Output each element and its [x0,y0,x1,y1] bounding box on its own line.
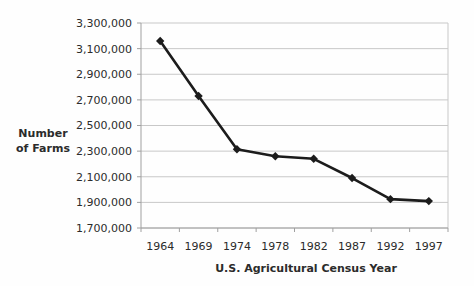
y-tick-label: 2,100,000 [76,171,132,184]
x-axis-title: U.S. Agricultural Census Year [150,262,462,275]
y-tick-label: 2,700,000 [76,94,132,107]
x-tick-label: 1992 [376,240,404,253]
y-tick-label: 3,100,000 [76,43,132,56]
x-tick-label: 1987 [338,240,366,253]
y-tick-label: 2,900,000 [76,68,132,81]
data-point-marker [309,155,317,163]
x-tick-label: 1964 [146,240,174,253]
data-point-marker [425,197,433,205]
y-tick-label: 2,300,000 [76,145,132,158]
y-tick-label: 2,500,000 [76,119,132,132]
farms-line-chart-figure: Number of Farms 3,300,0003,100,0002,900,… [0,0,474,286]
data-point-marker [271,152,279,160]
x-tick-label: 1969 [185,240,213,253]
y-tick-label: 1,700,000 [76,222,132,235]
x-tick-label: 1982 [300,240,328,253]
x-tick-label: 1978 [261,240,289,253]
x-tick-label: 1974 [223,240,251,253]
y-tick-label: 3,300,000 [76,17,132,30]
plot-svg: 3,300,0003,100,0002,900,0002,700,0002,50… [0,0,474,286]
x-tick-label: 1997 [415,240,443,253]
y-tick-label: 1,900,000 [76,196,132,209]
